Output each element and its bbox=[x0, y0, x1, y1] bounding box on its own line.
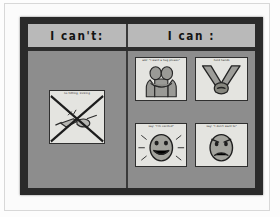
column-can: ask: "I want a hug please" bbox=[128, 51, 255, 188]
can-card-grid: ask: "I want a hug please" bbox=[135, 57, 248, 182]
card-ask-for-hug: ask: "I want a hug please" bbox=[135, 57, 188, 101]
board-header-row: I can't: I can : bbox=[28, 24, 255, 47]
card-no-hitting: no hitting, kicking bbox=[49, 90, 105, 144]
board-frame: I can't: I can : no hitting, kicking bbox=[20, 17, 263, 195]
board-surface: I can't: I can : no hitting, kicking bbox=[28, 24, 255, 188]
board-body: no hitting, kicking bbox=[28, 51, 255, 188]
crossed-out-hitting-icon bbox=[50, 95, 104, 143]
column-cant: no hitting, kicking bbox=[28, 51, 128, 188]
photograph: I can't: I can : no hitting, kicking bbox=[0, 0, 280, 217]
angry-face-icon bbox=[196, 128, 247, 166]
column-header-cant-label: I can't: bbox=[50, 29, 104, 42]
card-hold-hands: hold hands bbox=[195, 57, 248, 101]
column-header-can-label: I can : bbox=[168, 29, 215, 42]
two-people-hugging-icon bbox=[136, 62, 187, 100]
happy-face-icon bbox=[136, 128, 187, 166]
card-say-dont-want-to: say: "I don't want to" bbox=[195, 123, 248, 167]
two-hands-clasped-icon bbox=[196, 62, 247, 100]
column-header-cant: I can't: bbox=[28, 24, 128, 47]
column-header-can: I can : bbox=[128, 24, 255, 47]
card-say-excited: say: "I'm excited" bbox=[135, 123, 188, 167]
